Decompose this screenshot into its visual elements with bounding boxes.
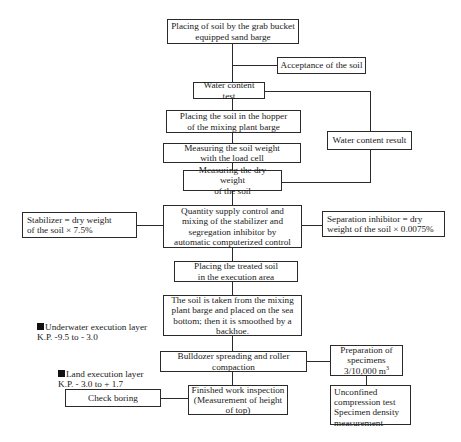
- node-hopper-text: Placing the soil in the hopper of the mi…: [180, 111, 287, 131]
- node-unconfined-text: Unconfined compression test Specimen den…: [334, 387, 399, 428]
- node-finished-inspection: Finished work inspection (Measurement of…: [188, 385, 288, 415]
- node-water-content-test: Water content test: [193, 82, 265, 99]
- connector-treated-to-sea: [232, 282, 233, 295]
- node-sea-bottom: The soil is taken from the mixing plant …: [163, 295, 302, 336]
- label-land-layer-text: Land execution layer K.P. - 3.0 to + 1.7: [58, 369, 144, 390]
- node-treated-soil: Placing the treated soil in the executio…: [174, 261, 298, 282]
- connector-to-acceptance: [232, 65, 277, 66]
- node-soil-weight-text: Measuring the soil weight with the load …: [184, 143, 280, 163]
- connector-main-spine-top: [232, 43, 233, 83]
- connector-prep-to-unconfined: [366, 376, 367, 385]
- node-water-content-test-text: Water content test: [196, 80, 262, 100]
- node-separation-inhibitor-text: Separation inhibitor = dry weight of the…: [327, 214, 434, 234]
- node-preparation-text: Preparation of specimens 3/10,000 m3: [340, 345, 392, 376]
- node-dry-weight-text: Measuring the dry weight of the soil: [186, 165, 279, 196]
- connector-water-to-right: [265, 91, 371, 92]
- connector-quantity-to-treated: [232, 248, 233, 261]
- node-treated-soil-text: Placing the treated soil in the executio…: [194, 261, 278, 281]
- node-acceptance-text: Acceptance of the soil: [281, 60, 363, 70]
- connector-bulldozer-to-finished: [232, 372, 233, 385]
- connector-hopper-to-weight: [232, 133, 233, 143]
- node-stabilizer: Stabilizer = dry weight of the soil × 7.…: [22, 212, 137, 238]
- connector-separation: [302, 225, 322, 226]
- node-dry-weight: Measuring the dry weight of the soil: [183, 170, 282, 191]
- node-acceptance: Acceptance of the soil: [277, 57, 366, 74]
- black-square-bullet-icon: [37, 323, 44, 330]
- node-sea-bottom-text: The soil is taken from the mixing plant …: [171, 295, 293, 336]
- node-bulldozer: Bulldozer spreading and roller compactio…: [160, 351, 307, 372]
- node-hopper: Placing the soil in the hopper of the mi…: [166, 110, 301, 133]
- connector-result-to-dry: [282, 182, 371, 183]
- node-preparation-main-text: Preparation of specimens 3/10,000 m: [340, 345, 392, 375]
- label-underwater-layer: Underwater execution layer K.P. -9.5 to …: [37, 311, 147, 343]
- node-quantity-control-text: Quantity supply control and mixing of th…: [174, 206, 291, 247]
- node-water-content-result-text: Water content result: [333, 135, 407, 145]
- node-quantity-control: Quantity supply control and mixing of th…: [163, 205, 302, 248]
- node-unconfined: Unconfined compression test Specimen den…: [330, 385, 411, 425]
- node-separation-inhibitor: Separation inhibitor = dry weight of the…: [322, 211, 445, 237]
- node-check-boring: Check boring: [65, 389, 161, 407]
- node-stabilizer-text: Stabilizer = dry weight of the soil × 7.…: [27, 215, 112, 235]
- node-placing-soil-text: Placing of soil by the grab bucket equip…: [171, 21, 295, 41]
- node-water-content-result: Water content result: [327, 131, 412, 150]
- node-soil-weight: Measuring the soil weight with the load …: [163, 143, 301, 163]
- connector-bulldozer-to-prep: [307, 361, 330, 362]
- node-bulldozer-text: Bulldozer spreading and roller compactio…: [178, 351, 290, 371]
- node-finished-inspection-text: Finished work inspection (Measurement of…: [192, 385, 285, 416]
- label-underwater-layer-text: Underwater execution layer K.P. -9.5 to …: [37, 322, 147, 343]
- node-placing-soil: Placing of soil by the grab bucket equip…: [167, 19, 299, 44]
- connector-stabilizer: [137, 225, 163, 226]
- label-land-layer: Land execution layer K.P. - 3.0 to + 1.7: [58, 358, 144, 390]
- node-check-boring-text: Check boring: [88, 393, 138, 403]
- connector-finished-to-check: [161, 398, 188, 399]
- node-preparation: Preparation of specimens 3/10,000 m3: [330, 345, 403, 376]
- black-square-bullet-icon: [58, 370, 65, 377]
- connector-sea-to-bulldozer: [232, 336, 233, 351]
- node-preparation-superscript: 3: [386, 365, 389, 371]
